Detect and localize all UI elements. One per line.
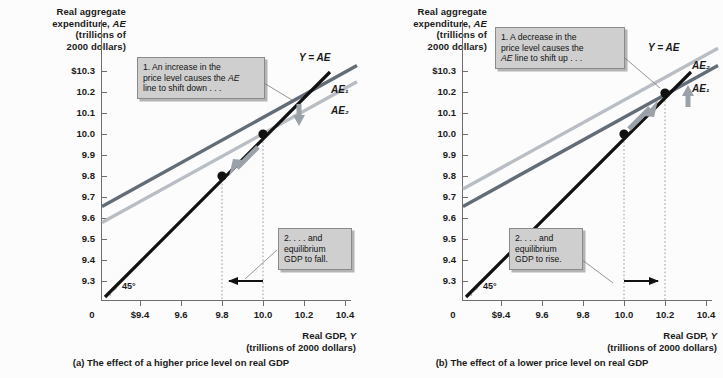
panel-a-caption: (a) The effect of a higher price level o…: [0, 357, 362, 368]
panel-a-higher-price-level: Real aggregate expenditure, AE (trillion…: [0, 0, 362, 378]
callout-b-1-line3: AE line to shift up . . .: [501, 53, 582, 63]
x-axis-title-line1: Real GDP, Y: [302, 330, 356, 341]
callout-b-1-line1: 1. A decrease in the: [501, 32, 577, 42]
callout-b-2-line1: 2. . . . and: [515, 233, 553, 243]
line-label-a-ae1: AE₁: [331, 84, 348, 95]
equilibrium-dot-b-initial: [619, 129, 628, 138]
line-label-b-y-equals-ae: Y = AE: [648, 42, 679, 53]
shift-arrow-a-right-head: [293, 115, 305, 126]
callout-a-2-line3: GDP to fall.: [284, 254, 328, 264]
callout-b-1-line2: price level causes the: [501, 43, 584, 53]
callout-b-2-line2: equilibrium: [515, 244, 557, 254]
equilibrium-dot-a-initial: [258, 129, 267, 138]
callout-b-2-line3: GDP to rise.: [515, 254, 562, 264]
callout-a-1-line1: 1. An increase in the: [143, 62, 221, 72]
callout-a-2-line1: 2. . . . and: [284, 233, 322, 243]
callout-a-2-line2: equilibrium: [284, 244, 326, 254]
equilibrium-dot-a-new: [217, 171, 226, 180]
line-label-a-y-equals-ae: Y = AE: [299, 52, 330, 63]
x-axis-title-b-line1: Real GDP, Y: [663, 330, 717, 341]
x-axis-title-line2: (trillions of 2000 dollars): [246, 342, 356, 353]
line-label-a-ae2: AE₂: [331, 105, 349, 116]
panel-b-lower-price-level: Real aggregate expenditure, AE (trillion…: [361, 0, 723, 378]
angle-label-b: 45°: [483, 281, 497, 291]
callout-b-1: 1. A decrease in the price level causes …: [495, 27, 625, 69]
x-axis-title-b-line2: (trillions of 2000 dollars): [607, 342, 717, 353]
callout-b-2: 2. . . . and equilibrium GDP to rise.: [509, 228, 583, 270]
callout-a-2: 2. . . . and equilibrium GDP to fall.: [278, 228, 352, 270]
leader-line-a-callout2: [245, 250, 277, 279]
x-axis-title-y: Y: [350, 330, 356, 341]
callout-a-1-line2: price level causes the AE: [143, 73, 240, 83]
x-axis-title-b: Real GDP, Y (trillions of 2000 dollars): [537, 330, 717, 353]
equilibrium-dot-b-new: [660, 88, 669, 97]
gdp-arrow-a-head: [228, 277, 238, 285]
callout-a-1-line3: line to shift down . . .: [143, 83, 221, 93]
shift-arrow-a-diagonal-shaft: [237, 147, 258, 168]
line-ae2-a: [102, 82, 357, 223]
gdp-arrow-b-head: [649, 277, 659, 285]
line-ae2-b: [463, 48, 718, 189]
line-ae1-b: [463, 66, 718, 207]
x-axis-title-a: Real GDP, Y (trillions of 2000 dollars): [176, 330, 356, 353]
callout-a-1: 1. An increase in the price level causes…: [137, 57, 265, 99]
line-label-b-ae2: AE₂: [692, 60, 710, 71]
panel-b-caption: (b) The effect of a lower price level on…: [361, 357, 723, 368]
line-label-b-ae1: AE₁: [692, 83, 709, 94]
x-axis-title-b-y: Y: [711, 330, 717, 341]
leader-line-b-callout1: [619, 53, 660, 88]
angle-label-a: 45°: [122, 281, 136, 291]
